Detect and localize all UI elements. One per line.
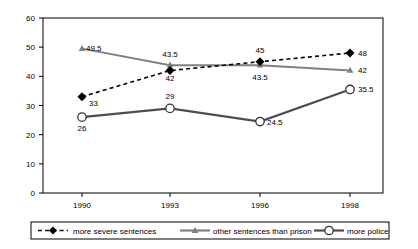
label-severe-1996: 45 bbox=[256, 46, 265, 55]
y-axis: 60 50 40 30 20 10 0 bbox=[26, 14, 43, 198]
label-severe-1990: 33 bbox=[89, 99, 98, 108]
y-tick-label-60: 60 bbox=[26, 14, 35, 23]
line-chart: 60 50 40 30 20 10 0 1990 1993 1996 1998 bbox=[0, 0, 418, 249]
y-tick-label-0: 0 bbox=[31, 189, 36, 198]
label-severe-1993: 42 bbox=[166, 74, 175, 83]
label-police-1993: 29 bbox=[166, 92, 175, 101]
x-axis: 1990 1993 1996 1998 bbox=[73, 193, 359, 210]
x-tick-label-1993: 1993 bbox=[161, 201, 179, 210]
series-police-marker-1996 bbox=[256, 117, 264, 125]
label-other-1993: 43.5 bbox=[162, 50, 178, 59]
series-police-marker-1998 bbox=[346, 85, 354, 93]
x-tick-label-1998: 1998 bbox=[341, 201, 359, 210]
label-other-1996: 43.5 bbox=[252, 73, 268, 82]
legend-marker-police-circle-icon bbox=[325, 226, 333, 234]
label-police-1990: 26 bbox=[78, 124, 87, 133]
label-severe-1998: 48 bbox=[358, 49, 367, 58]
y-tick-label-40: 40 bbox=[26, 72, 35, 81]
series-police-marker-1990 bbox=[78, 113, 86, 121]
label-police-1998: 35.5 bbox=[358, 85, 374, 94]
label-police-1996: 24.5 bbox=[267, 118, 283, 127]
chart-svg: 60 50 40 30 20 10 0 1990 1993 1996 1998 bbox=[0, 0, 418, 249]
series-police-marker-1993 bbox=[166, 104, 174, 112]
y-tick-label-10: 10 bbox=[26, 160, 35, 169]
label-other-1998: 42 bbox=[358, 66, 367, 75]
label-other-1990: 49.5 bbox=[86, 44, 102, 53]
y-tick-label-30: 30 bbox=[26, 102, 35, 111]
legend-label-police: more police bbox=[347, 227, 389, 236]
chart-legend: more severe sentences other sentences th… bbox=[31, 222, 389, 239]
x-tick-label-1996: 1996 bbox=[251, 201, 269, 210]
legend-label-other: other sentences than prison bbox=[213, 227, 312, 236]
legend-label-severe: more severe sentences bbox=[73, 227, 156, 236]
y-tick-label-50: 50 bbox=[26, 43, 35, 52]
y-tick-label-20: 20 bbox=[26, 131, 35, 140]
x-tick-label-1990: 1990 bbox=[73, 201, 91, 210]
